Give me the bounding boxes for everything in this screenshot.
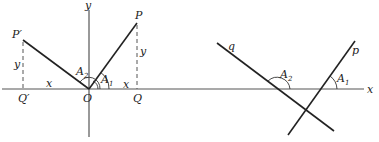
diagram-canvas: y P P′ O Q Q′ y y x x A1 A2 x q p (0, 0, 379, 142)
origin-O-label: O (83, 92, 92, 105)
right-figure: x q p A2 A1 (217, 40, 374, 135)
line-q (217, 43, 334, 131)
angle-A1-label: A1 (100, 73, 113, 88)
line-q-label: q (228, 40, 235, 53)
point-Q-prime-label: Q′ (18, 92, 30, 105)
x-length-right-label: x (123, 78, 130, 91)
line-p-label: p (352, 44, 359, 57)
point-P-prime-label: P′ (11, 28, 22, 41)
angle-arc-A1 (330, 76, 337, 89)
x-length-left-label: x (46, 77, 53, 90)
y-length-left-label: y (13, 58, 21, 71)
x-axis-label: x (367, 83, 374, 96)
y-length-right-label: y (139, 45, 147, 58)
point-P-label: P (134, 9, 143, 22)
point-Q-label: Q (133, 92, 142, 105)
angle-A1-label: A1 (336, 72, 349, 87)
y-axis-label: y (84, 0, 92, 12)
left-figure: y P P′ O Q Q′ y y x x A1 A2 (2, 0, 364, 137)
angle-A2-label: A2 (75, 65, 89, 80)
angle-A2-label: A2 (279, 68, 293, 83)
